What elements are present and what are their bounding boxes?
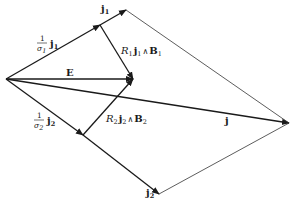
svg-text:σ1: σ1 xyxy=(37,44,46,55)
j1-label: j1 xyxy=(100,3,109,16)
hall-term-2-label: R2j2∧B2 xyxy=(105,113,147,126)
svg-text:j2: j2 xyxy=(46,115,55,128)
parallelogram-side-lower xyxy=(159,123,289,194)
hall-term-1-label: R1j1∧B1 xyxy=(120,45,162,58)
vector-diagram: j1 1 σ1 j1 R1j1∧B1 E 1 σ2 j2 R2j2∧B2 j j… xyxy=(0,0,292,208)
hall-term-2-vector xyxy=(83,79,133,135)
j1-over-sigma1-vector xyxy=(6,25,100,79)
parallelogram-side-upper xyxy=(126,10,289,123)
svg-text:σ2: σ2 xyxy=(34,121,43,132)
j2-scaled-label: 1 σ2 j2 xyxy=(34,111,55,132)
j-resultant-label: j xyxy=(224,115,229,126)
j2-vector xyxy=(83,135,159,194)
svg-text:1: 1 xyxy=(37,111,42,120)
e-field-label: E xyxy=(66,67,74,78)
svg-text:1: 1 xyxy=(40,34,45,43)
svg-text:j1: j1 xyxy=(49,38,58,51)
j2-over-sigma2-vector xyxy=(6,79,83,135)
